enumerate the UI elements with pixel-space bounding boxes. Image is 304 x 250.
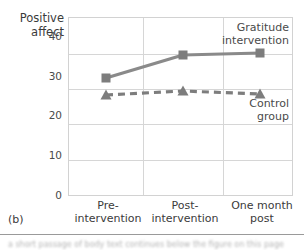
footer-body-text: a short passage of body text continues b…: [8, 240, 300, 249]
marker-gratitude-pre: [102, 74, 111, 83]
y-tick-label-10: 10: [36, 150, 62, 161]
marker-gratitude-post: [179, 51, 188, 60]
marker-gratitude-one-month: [256, 49, 265, 58]
panel-letter: (b): [8, 213, 24, 226]
series-label-control-group: Control group: [249, 97, 289, 123]
series-label-gratitude-intervention: Gratitude intervention: [222, 21, 289, 47]
y-tick-label-20: 20: [36, 110, 62, 121]
y-tick-label-0: 0: [36, 190, 62, 201]
plot-area: Gratitude intervention Control group: [68, 17, 293, 196]
footer-divider: [0, 234, 304, 235]
y-tick-label-30: 30: [36, 71, 62, 82]
x-tick-label-one-month-post: One month post: [216, 199, 304, 225]
figure-panel-b: Positive affect 0 10 20 30 40 Gratitude …: [0, 0, 304, 250]
y-tick-label-40: 40: [36, 31, 62, 42]
